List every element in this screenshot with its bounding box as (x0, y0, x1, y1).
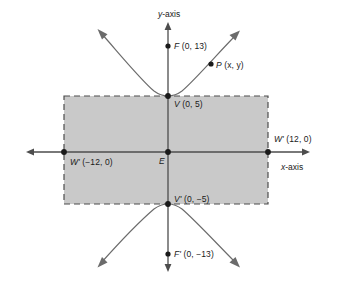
point-F (165, 43, 170, 48)
point-E (165, 149, 171, 155)
point-W-right (265, 149, 271, 155)
point-V-prime (165, 201, 171, 207)
point-W-left (61, 149, 67, 155)
hyperbola-upper-right-arrowhead (230, 31, 241, 41)
label-point-V: V (0, 5) (174, 100, 203, 109)
label-point-W-right: W' (12, 0) (274, 135, 312, 144)
hyperbola-lower-left-arrowhead (98, 257, 108, 268)
point-P (208, 61, 213, 66)
label-point-P: P (x, y) (216, 61, 244, 70)
label-point-E: E (159, 157, 165, 166)
label-point-F: F (0, 13) (174, 42, 207, 51)
x-axis-left-arrowhead (26, 149, 34, 156)
point-V (165, 93, 171, 99)
y-axis-label: y-axis (158, 10, 180, 19)
y-axis-top-arrowhead (165, 22, 172, 30)
x-axis-right-arrowhead (302, 149, 310, 156)
x-axis-label: x-axis (281, 163, 303, 172)
hyperbola-figure: y-axis x-axis F (0, 13) P (x, y) V (0, 5… (0, 0, 340, 286)
point-F-prime (165, 251, 170, 256)
y-axis-bottom-arrowhead (165, 264, 172, 272)
label-point-W-left: W' (−12, 0) (70, 158, 113, 167)
label-point-V-prime: V' (0, −5) (174, 195, 209, 204)
label-point-F-prime: F' (0, −13) (174, 250, 214, 259)
